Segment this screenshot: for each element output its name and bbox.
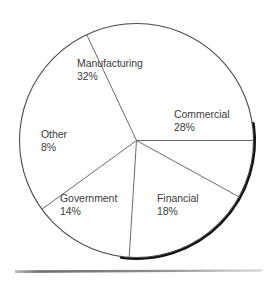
slice-label-financial-value: 18%: [157, 205, 199, 218]
slice-label-financial: Financial 18%: [157, 192, 199, 217]
slice-label-commercial-value: 28%: [174, 121, 230, 134]
slice-label-other-value: 8%: [41, 141, 67, 154]
slice-label-commercial: Commercial 28%: [174, 108, 230, 133]
slice-label-commercial-name: Commercial: [174, 108, 230, 121]
baseline-rule: [15, 269, 262, 273]
slice-label-manufacturing-value: 32%: [77, 70, 143, 83]
slice-label-government-name: Government: [60, 192, 117, 205]
slice-label-manufacturing-name: Manufacturing: [77, 57, 143, 70]
pie-chart-figure: Manufacturing 32% Commercial 28% Financi…: [0, 0, 270, 281]
slice-label-financial-name: Financial: [157, 192, 199, 205]
slice-label-other: Other 8%: [41, 128, 67, 153]
slice-label-other-name: Other: [41, 128, 67, 141]
slice-label-government-value: 14%: [60, 205, 117, 218]
slice-label-government: Government 14%: [60, 192, 117, 217]
slice-label-manufacturing: Manufacturing 32%: [77, 57, 143, 82]
